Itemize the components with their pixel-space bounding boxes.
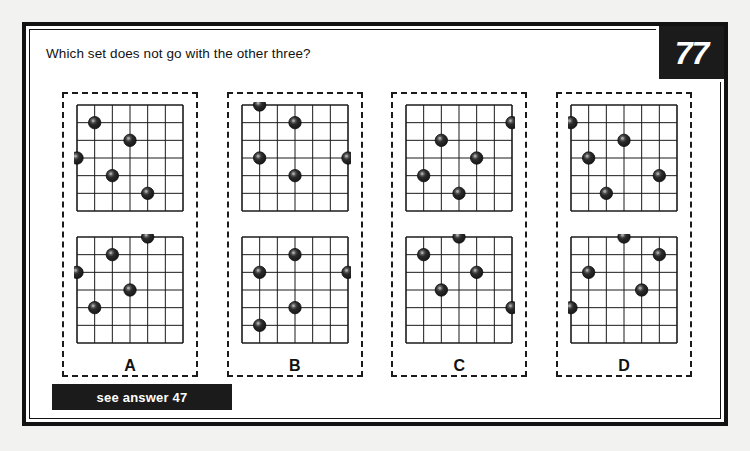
question-text: Which set does not go with the other thr… — [46, 46, 311, 61]
grid-ball — [74, 266, 83, 278]
opt3-top-grid — [568, 102, 680, 214]
option-label-a: A — [124, 357, 136, 375]
grid-ball — [618, 134, 630, 146]
options-row: ABCD — [62, 92, 692, 377]
grid-ball — [106, 248, 118, 260]
grid-ball — [124, 284, 136, 296]
grid-ball — [453, 187, 465, 199]
opt0-bottom-grid — [74, 234, 186, 346]
puzzle-page: Which set does not go with the other thr… — [0, 0, 750, 451]
grid-ball — [600, 187, 612, 199]
grid-ball — [141, 187, 153, 199]
grid-ball — [568, 301, 577, 313]
grid-ball — [635, 284, 647, 296]
opt3-bottom-grid — [568, 234, 680, 346]
grid-ball — [88, 301, 100, 313]
opt2-top-grid — [403, 102, 515, 214]
grid-ball — [418, 248, 430, 260]
grid-ball — [288, 301, 300, 313]
grid-ball — [288, 116, 300, 128]
option-label-c: C — [454, 357, 466, 375]
grid-ball — [106, 169, 118, 181]
grid-ball — [582, 266, 594, 278]
grid-ball — [506, 301, 515, 313]
grid-ball — [288, 248, 300, 260]
grid-ball — [88, 116, 100, 128]
grid-ball — [341, 152, 350, 164]
grid-ball — [341, 266, 350, 278]
grid-ball — [124, 134, 136, 146]
question-number: 77 — [659, 34, 724, 71]
grid-ball — [653, 248, 665, 260]
grid-ball — [141, 234, 153, 243]
option-panel-b[interactable]: B — [227, 92, 363, 377]
grid-ball — [618, 234, 630, 243]
grid-ball — [253, 319, 265, 331]
grid-ball — [471, 152, 483, 164]
grid-ball — [582, 152, 594, 164]
grid-ball — [568, 116, 577, 128]
see-answer-bar[interactable]: see answer 47 — [52, 384, 232, 410]
opt1-top-grid — [239, 102, 351, 214]
grid-ball — [435, 134, 447, 146]
grid-ball — [471, 266, 483, 278]
grid-ball — [506, 116, 515, 128]
grid-ball — [435, 284, 447, 296]
option-panel-c[interactable]: C — [391, 92, 527, 377]
puzzle-frame-inner: Which set does not go with the other thr… — [29, 29, 721, 419]
option-panel-a[interactable]: A — [62, 92, 198, 377]
grid-ball — [253, 152, 265, 164]
option-panel-d[interactable]: D — [556, 92, 692, 377]
question-number-badge: 77 — [656, 26, 724, 82]
grid-ball — [253, 266, 265, 278]
grid-ball — [288, 169, 300, 181]
puzzle-frame: Which set does not go with the other thr… — [22, 22, 728, 426]
opt1-bottom-grid — [239, 234, 351, 346]
opt2-bottom-grid — [403, 234, 515, 346]
option-label-b: B — [289, 357, 301, 375]
grid-ball — [418, 169, 430, 181]
see-answer-label: see answer 47 — [97, 390, 188, 405]
option-label-d: D — [618, 357, 630, 375]
grid-ball — [74, 152, 83, 164]
grid-ball — [453, 234, 465, 243]
opt0-top-grid — [74, 102, 186, 214]
grid-ball — [653, 169, 665, 181]
grid-ball — [253, 102, 265, 111]
